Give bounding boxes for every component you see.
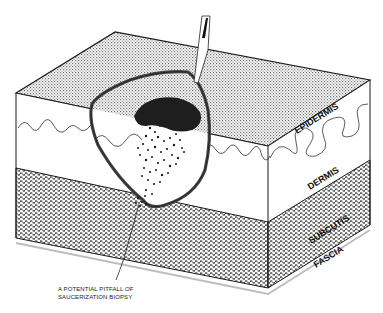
skin-biopsy-diagram: EPIDERMIS DERMIS SUBCUTIS FASCIA A POTEN… bbox=[0, 0, 383, 313]
annotation-caption-line2: SAUCERIZATION BIOPSY bbox=[58, 294, 132, 300]
annotation-caption-line1: A POTENTIAL PITFALL OF bbox=[58, 286, 134, 292]
